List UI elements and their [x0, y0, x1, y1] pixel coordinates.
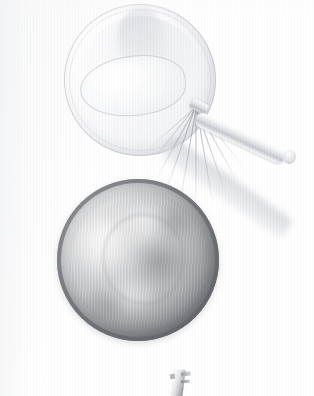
utensil-upper-arm: [181, 371, 191, 376]
utensil-lower-arm: [181, 380, 190, 384]
steel-bowl-rim: [57, 179, 219, 341]
utensil-notch: [170, 374, 176, 380]
photograph-canvas: [0, 0, 314, 396]
utensil-fragment: [168, 368, 192, 396]
